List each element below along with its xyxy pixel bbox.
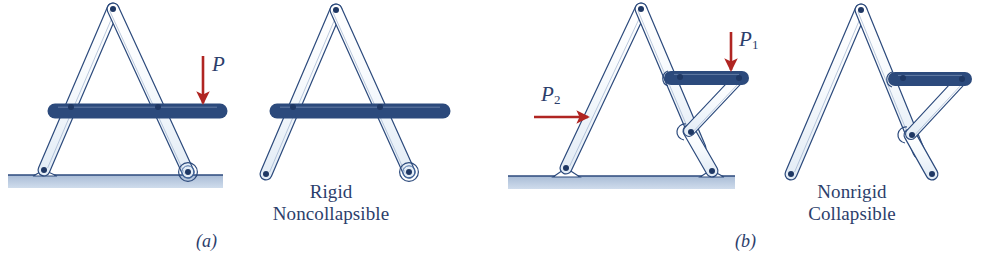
- load-label-P2: P2: [541, 82, 561, 107]
- load-label-P2-subscript: 2: [554, 92, 561, 107]
- panel-a-rigid-right-leg-link: [333, 10, 409, 174]
- panel-b-left-leg-link: [566, 7, 645, 168]
- load-label-P2-symbol: P: [541, 82, 554, 106]
- panel-a-description: Rigid Noncollapsible: [258, 181, 404, 226]
- figure-root: P Rigid Noncollapsible (a) P1 P2 Nonrigi…: [0, 0, 987, 263]
- panel-a-joints: [41, 6, 191, 175]
- panel-a-left-leg-link: [44, 7, 117, 170]
- panel-b-ground: [508, 176, 735, 189]
- panel-b-diagonal-brace-link: [689, 78, 741, 133]
- panel-a-rigid-left-leg-link: [266, 8, 340, 174]
- panel-b-collapsed-left-leg-link: [791, 8, 865, 174]
- panel-b-description: Nonrigid Collapsible: [776, 181, 928, 226]
- panel-a-rigid-joints: [263, 7, 412, 177]
- panel-a-description-line2: Noncollapsible: [258, 203, 404, 225]
- panel-b-collapsed-frame: [788, 7, 965, 177]
- panel-a-description-line1: Rigid: [258, 181, 404, 203]
- panel-a-right-leg-link: [110, 9, 188, 174]
- load-label-P1: P1: [739, 27, 759, 52]
- panel-a-caption: (a): [196, 231, 217, 252]
- load-label-P1-subscript: 1: [752, 37, 759, 52]
- load-label-P1-symbol: P: [739, 27, 752, 51]
- panel-b-description-line2: Collapsible: [776, 203, 928, 225]
- panel-b-description-line1: Nonrigid: [776, 181, 928, 203]
- panel-a-cross-bar-link: [55, 107, 220, 111]
- panel-b-collapsed-diagonal-brace-link: [911, 79, 964, 136]
- load-label-P: P: [212, 52, 225, 77]
- panel-a-loaded-frame: [8, 6, 223, 188]
- panel-a-rigid-frame: [263, 7, 443, 181]
- panel-b-caption: (b): [735, 231, 756, 252]
- panel-a-rigid-cross-bar-link: [277, 107, 443, 111]
